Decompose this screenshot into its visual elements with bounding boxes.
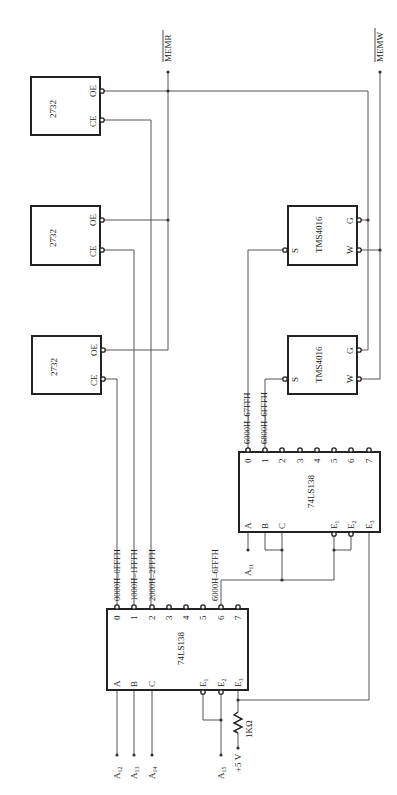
svg-text:4: 4: [181, 615, 191, 620]
svg-text:S: S: [290, 248, 300, 253]
svg-text:7: 7: [364, 458, 374, 463]
svg-text:6000H–67FFH: 6000H–67FFH: [242, 393, 252, 444]
svg-text:1: 1: [260, 459, 270, 464]
a14-label: A14: [147, 767, 158, 780]
svg-text:0: 0: [243, 458, 253, 463]
svg-text:74LS138: 74LS138: [176, 631, 186, 665]
svg-text:2732: 2732: [48, 100, 58, 118]
memw-label: MEMW: [375, 28, 385, 62]
svg-text:6: 6: [346, 458, 356, 463]
svg-text:OE: OE: [89, 344, 99, 356]
a12-label: A12: [112, 767, 123, 780]
svg-text:2000H–2FFFH: 2000H–2FFFH: [147, 549, 157, 601]
memory-interface-schematic: MEMR MEMW 2732 OE CE 2732 OE CE 2732 OE …: [0, 0, 397, 795]
svg-text:3: 3: [295, 458, 305, 463]
svg-text:6800H–6FFFH: 6800H–6FFFH: [259, 392, 269, 444]
resistor-label: 1KΩ: [244, 720, 254, 738]
svg-text:2732: 2732: [49, 358, 59, 376]
ram-tms4016-1: S TMS4016 G W: [283, 206, 361, 265]
svg-text:C: C: [277, 523, 287, 529]
a13-label: A13: [129, 767, 140, 780]
a11-label: A11: [243, 564, 254, 576]
vcc-label: +5 V: [233, 753, 243, 772]
decoder-74ls138-2: 0 1 2 3 4 5 6 7 74LS138 A B C E1 E2 E3 6…: [239, 392, 380, 536]
decoder-74ls138-1: 0 1 2 3 4 5 6 7 74LS138 A B C E1 E2 E3 0…: [107, 549, 248, 694]
svg-text:OE: OE: [88, 85, 98, 97]
svg-text:A: A: [112, 680, 122, 687]
svg-text:6: 6: [216, 615, 226, 620]
svg-text:1000H–1FFFH: 1000H–1FFFH: [129, 549, 139, 601]
svg-text:3: 3: [164, 615, 174, 620]
eprom-2732-3: 2732 OE CE: [32, 336, 105, 394]
svg-text:W: W: [345, 374, 355, 383]
svg-text:MEMW: MEMW: [375, 31, 385, 62]
svg-text:CE: CE: [88, 115, 98, 127]
svg-text:MEMR: MEMR: [163, 34, 173, 62]
eprom-2732-1: 2732 OE CE: [31, 77, 104, 135]
svg-text:B: B: [260, 523, 270, 529]
svg-text:2: 2: [277, 459, 287, 464]
svg-text:2732: 2732: [48, 229, 58, 247]
svg-text:5: 5: [198, 615, 208, 620]
svg-text:G: G: [345, 217, 355, 224]
svg-text:4: 4: [312, 458, 322, 463]
svg-text:TMS4016: TMS4016: [314, 216, 324, 253]
svg-text:G: G: [345, 347, 355, 354]
svg-text:74LS138: 74LS138: [306, 474, 316, 508]
svg-text:6000H–6FFFH: 6000H–6FFFH: [210, 549, 220, 601]
memr-label: MEMR: [163, 30, 173, 62]
svg-text:A: A: [243, 522, 253, 529]
svg-text:CE: CE: [89, 374, 99, 386]
ram-tms4016-2: S TMS4016 G W: [283, 336, 361, 394]
svg-text:0000H–0FFFH: 0000H–0FFFH: [112, 549, 122, 601]
svg-text:2: 2: [147, 616, 157, 621]
svg-text:0: 0: [112, 615, 122, 620]
svg-text:B: B: [129, 681, 139, 687]
svg-text:7: 7: [233, 615, 243, 620]
svg-text:C: C: [147, 681, 157, 687]
svg-text:5: 5: [329, 458, 339, 463]
svg-text:TMS4016: TMS4016: [314, 346, 324, 383]
svg-text:S: S: [290, 377, 300, 382]
svg-text:OE: OE: [88, 214, 98, 226]
svg-text:CE: CE: [88, 245, 98, 257]
eprom-2732-2: 2732 OE CE: [31, 206, 104, 265]
a15-label: A15: [216, 767, 227, 780]
svg-text:W: W: [345, 245, 355, 254]
svg-text:1: 1: [129, 616, 139, 621]
